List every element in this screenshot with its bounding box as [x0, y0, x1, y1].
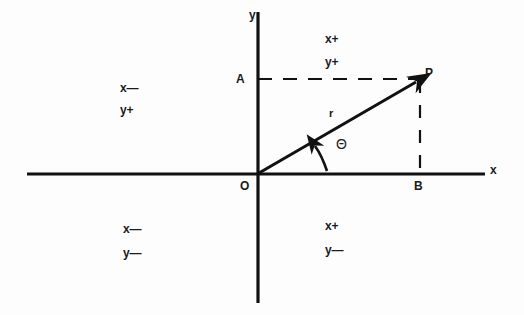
- quadrant-iii-x-sign: x—: [123, 223, 141, 235]
- quadrant-i-y-sign: y+: [325, 56, 338, 68]
- radius-label: r: [329, 108, 333, 119]
- point-p-label: P: [425, 67, 433, 79]
- origin-label: O: [240, 180, 249, 192]
- x-axis-label: x: [490, 164, 496, 176]
- point-a-label: A: [236, 73, 244, 85]
- angle-indicator-arrow: [315, 146, 327, 171]
- y-axis-label: y: [249, 9, 255, 21]
- coordinate-diagram: y x O P A B r Θ x+ y+ x— y+ x— y— x+ y—: [0, 0, 524, 315]
- quadrant-i-x-sign: x+: [325, 33, 338, 45]
- quadrant-ii-x-sign: x—: [120, 82, 138, 94]
- diagram-canvas: [0, 0, 524, 315]
- quadrant-iv-y-sign: y—: [325, 244, 343, 256]
- quadrant-iii-y-sign: y—: [123, 247, 141, 259]
- quadrant-iv-x-sign: x+: [325, 220, 338, 232]
- point-b-label: B: [414, 180, 422, 192]
- radius-vector-line: [259, 82, 416, 173]
- quadrant-ii-y-sign: y+: [120, 104, 133, 116]
- angle-theta-label: Θ: [336, 137, 347, 151]
